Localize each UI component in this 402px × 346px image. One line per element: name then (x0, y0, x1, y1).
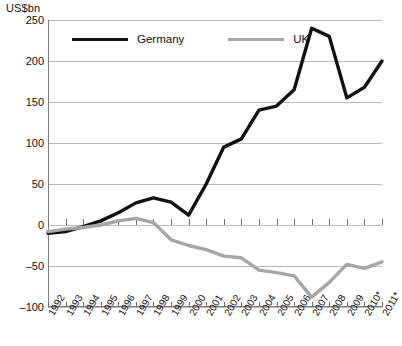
legend-item-germany: Germany (72, 33, 184, 45)
chart-legend: Germany UK (72, 33, 309, 45)
legend-label-germany: Germany (137, 33, 184, 45)
legend-swatch-uk-line-icon (228, 38, 284, 41)
series-line-uk (48, 218, 382, 297)
series-line-germany (48, 28, 382, 233)
legend-item-uk: UK (228, 33, 309, 45)
legend-swatch-germany-line-icon (72, 38, 128, 41)
legend-label-uk: UK (293, 33, 309, 45)
